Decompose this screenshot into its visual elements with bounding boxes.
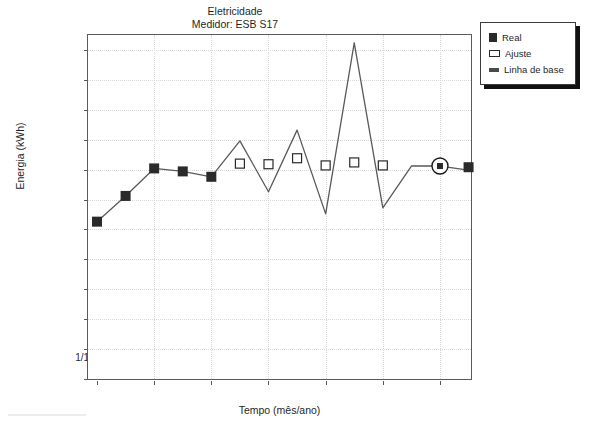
- legend-label: Linha de base: [504, 64, 564, 75]
- page-artifact-line: [8, 414, 86, 416]
- legend-item-linha-de-base[interactable]: Linha de base: [489, 62, 568, 77]
- chart-page: Eletricidade Medidor: ESB S17 Energia (k…: [0, 0, 590, 426]
- x-tick-mark: [211, 381, 212, 385]
- legend-label: Real: [502, 32, 522, 43]
- plot-area: [87, 34, 472, 380]
- line-icon: [489, 68, 499, 72]
- real-data-point: [92, 217, 102, 227]
- ajuste-data-point: [235, 159, 244, 168]
- x-tick-mark: [154, 381, 155, 385]
- y-axis-label: Energia (kWh): [14, 96, 26, 216]
- x-axis-label: Tempo (mês/ano): [87, 404, 472, 416]
- real-data-point: [121, 191, 131, 201]
- real-data-point: [149, 163, 159, 173]
- chart-title-line-2: Medidor: ESB S17: [0, 18, 470, 31]
- ajuste-data-point: [350, 158, 359, 167]
- real-data-point-highlighted: [437, 163, 443, 169]
- series-layer: [88, 35, 471, 379]
- legend-label: Ajuste: [505, 48, 531, 59]
- y-tick-mark: [84, 379, 88, 380]
- real-data-point: [464, 162, 474, 172]
- baseline-series-line: [97, 43, 469, 222]
- x-tick-mark: [97, 381, 98, 385]
- legend-item-ajuste[interactable]: Ajuste: [489, 46, 568, 61]
- real-data-point: [178, 166, 188, 176]
- ajuste-data-point: [378, 161, 387, 170]
- chart-title: Eletricidade Medidor: ESB S17: [0, 5, 470, 31]
- filled-square-icon: [489, 33, 497, 42]
- x-tick-mark: [440, 381, 441, 385]
- open-square-icon: [489, 50, 500, 57]
- ajuste-data-point: [321, 161, 330, 170]
- chart-legend: Real Ajuste Linha de base: [480, 22, 576, 85]
- real-data-point: [206, 172, 216, 182]
- ajuste-data-point: [293, 154, 302, 163]
- x-tick-mark: [383, 381, 384, 385]
- x-tick-mark: [326, 381, 327, 385]
- x-tick-mark: [268, 381, 269, 385]
- chart-title-line-1: Eletricidade: [0, 5, 470, 18]
- ajuste-data-point: [264, 160, 273, 169]
- legend-item-real[interactable]: Real: [489, 30, 568, 45]
